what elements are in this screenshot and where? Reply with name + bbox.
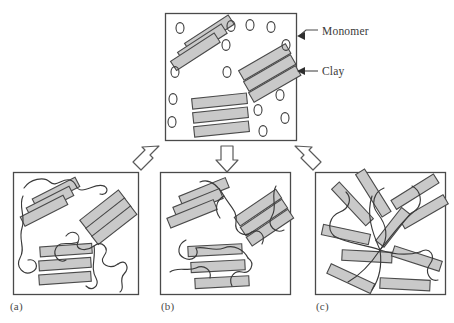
panel-label-a: (a) xyxy=(10,300,23,312)
phase-separated-microcomposite-panel xyxy=(14,173,139,295)
panel-label-b: (b) xyxy=(161,300,174,312)
clay-stack-a-right xyxy=(80,190,137,244)
panel-label-c: (c) xyxy=(316,300,329,312)
legend-leader-monomer xyxy=(297,30,318,40)
diagram-canvas: .plate{fill:#c9c9c9;stroke:#4a4a4a;strok… xyxy=(0,0,454,323)
arrow-to-panel-b xyxy=(216,146,238,172)
legend-label-clay: Clay xyxy=(322,65,345,77)
clay-stack-b-upper-left xyxy=(167,178,229,228)
arrow-to-panel-c xyxy=(295,146,321,170)
precursor-mixture-panel xyxy=(166,14,301,141)
clay-stack-a-left xyxy=(20,177,80,226)
clay-stack-b-upper-right xyxy=(234,189,293,246)
arrow-to-panel-a xyxy=(133,146,159,170)
legend-label-monomer: Monomer xyxy=(322,25,369,37)
clay-stack-top-left xyxy=(171,15,235,71)
intercalated-nanocomposite-panel xyxy=(161,173,294,295)
exfoliated-nanocomposite-panel xyxy=(316,169,449,295)
exfoliated-platelets-c xyxy=(321,169,448,294)
clay-stack-top-right xyxy=(239,44,301,103)
clay-stack-bottom-left xyxy=(192,93,250,137)
